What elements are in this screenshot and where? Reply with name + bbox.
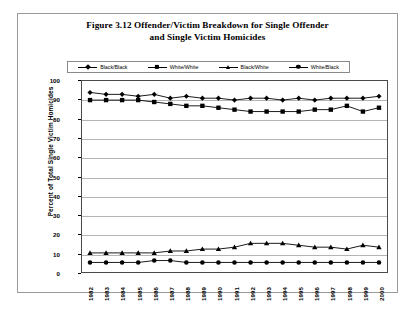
y-tick-label: 60 — [41, 154, 60, 161]
triangle-marker-icon — [219, 64, 238, 71]
x-tick-label: 2000 — [378, 287, 385, 301]
data-point-marker — [232, 107, 236, 111]
series-white-black — [88, 258, 382, 264]
data-point-marker — [264, 96, 269, 101]
data-point-marker — [168, 96, 173, 101]
y-tick-label: 80 — [41, 115, 60, 122]
data-point-marker — [120, 260, 125, 265]
chart-title-line-1: Figure 3.12 Offender/Victim Breakdown fo… — [18, 20, 397, 32]
legend-label: Black/Black — [99, 64, 127, 70]
plot-wrapper: 0102030405060708090100 — [60, 80, 388, 273]
series-layer — [82, 81, 387, 272]
x-tick-label: 1994 — [281, 287, 288, 301]
legend-label: White/White — [169, 64, 199, 70]
x-tick-label: 1989 — [200, 287, 207, 301]
data-point-marker — [216, 106, 220, 110]
y-tick-label: 30 — [41, 212, 60, 219]
data-point-marker — [345, 260, 350, 265]
x-tick-label: 1991 — [233, 287, 240, 301]
y-tick-label: 70 — [41, 134, 60, 141]
data-point-marker — [376, 94, 381, 99]
data-point-marker — [216, 260, 221, 265]
data-point-marker — [184, 104, 188, 108]
data-point-marker — [264, 260, 269, 265]
series-black-black — [87, 90, 381, 103]
data-point-marker — [377, 106, 381, 110]
x-tick-label: 1982 — [87, 287, 94, 301]
data-point-marker — [280, 109, 284, 113]
data-point-marker — [360, 243, 365, 248]
data-point-marker — [120, 92, 125, 97]
data-point-marker — [136, 260, 141, 265]
data-point-marker — [248, 109, 252, 113]
data-point-marker — [168, 102, 172, 106]
diamond-marker-icon — [78, 64, 97, 71]
data-point-marker — [152, 92, 157, 97]
data-point-marker — [360, 96, 365, 101]
legend-label: White/Black — [310, 64, 339, 70]
chart-legend: Black/Black White/White Black/White Whit… — [67, 61, 350, 73]
legend-item-black-black: Black/Black — [78, 64, 127, 71]
data-point-marker — [344, 96, 349, 101]
data-point-marker — [377, 260, 382, 265]
data-point-marker — [248, 260, 253, 265]
data-point-marker — [312, 98, 317, 103]
x-tick-label: 1987 — [168, 287, 175, 301]
x-tick-label: 1986 — [152, 287, 159, 301]
x-tick-label: 1997 — [329, 287, 336, 301]
x-tick-label: 1999 — [362, 287, 369, 301]
x-tick-label: 1996 — [313, 287, 320, 301]
y-tick-label: 10 — [41, 250, 60, 257]
legend-item-white-black: White/Black — [289, 64, 339, 71]
data-point-marker — [152, 100, 156, 104]
data-point-marker — [168, 258, 173, 263]
x-tick-label: 1990 — [216, 287, 223, 301]
data-point-marker — [232, 98, 237, 103]
y-tick-label: 90 — [41, 96, 60, 103]
x-tick-label: 1983 — [103, 287, 110, 301]
legend-item-black-white: Black/White — [219, 64, 269, 71]
y-tick-label: 40 — [41, 192, 60, 199]
data-point-marker — [120, 98, 124, 102]
data-point-marker — [361, 260, 366, 265]
y-tick-label: 100 — [41, 77, 60, 84]
data-point-marker — [329, 260, 334, 265]
figure-container: Figure 3.12 Offender/Victim Breakdown fo… — [17, 13, 398, 293]
data-point-marker — [87, 90, 92, 95]
x-tick-label: 1998 — [346, 287, 353, 301]
x-tick-label: 1984 — [119, 287, 126, 301]
data-point-marker — [345, 104, 349, 108]
data-point-marker — [200, 96, 205, 101]
chart-title: Figure 3.12 Offender/Victim Breakdown fo… — [18, 20, 397, 43]
data-point-marker — [313, 107, 317, 111]
legend-item-white-white: White/White — [148, 64, 199, 71]
legend-label: Black/White — [240, 64, 269, 70]
y-tick-label: 20 — [41, 231, 60, 238]
data-point-marker — [88, 260, 93, 265]
data-point-marker — [297, 109, 301, 113]
square-marker-icon — [148, 64, 167, 71]
data-point-marker — [264, 109, 268, 113]
data-point-marker — [103, 92, 108, 97]
y-tick-mark — [78, 273, 81, 274]
circle-marker-icon — [289, 64, 308, 71]
data-point-marker — [280, 260, 285, 265]
data-point-marker — [361, 109, 365, 113]
x-tick-label: 1993 — [265, 287, 272, 301]
data-point-marker — [200, 260, 205, 265]
chart-title-line-2: and Single Victim Homicides — [18, 32, 397, 44]
data-point-marker — [88, 98, 92, 102]
data-point-marker — [296, 260, 301, 265]
y-tick-label: 0 — [41, 270, 60, 277]
x-axis-labels: 1982198319841985198619871988198919901991… — [81, 275, 388, 305]
y-tick-label: 50 — [41, 173, 60, 180]
plot-area — [81, 80, 388, 273]
x-tick-label: 1992 — [249, 287, 256, 301]
data-point-marker — [328, 96, 333, 101]
data-point-marker — [280, 98, 285, 103]
data-point-marker — [312, 260, 317, 265]
data-point-marker — [136, 98, 140, 102]
data-point-marker — [104, 260, 109, 265]
data-point-marker — [248, 96, 253, 101]
data-point-marker — [200, 104, 204, 108]
